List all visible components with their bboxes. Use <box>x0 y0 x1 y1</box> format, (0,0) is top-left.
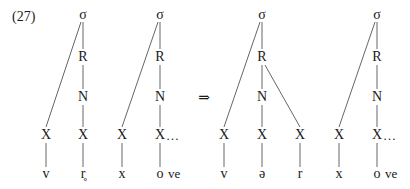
sigma-node: σ <box>373 8 381 22</box>
skeletal-slot: X <box>295 128 305 142</box>
rewrite-arrow-icon: ⇒ <box>198 89 210 106</box>
segment: x <box>119 167 126 181</box>
segment: r <box>298 167 303 181</box>
ellipsis: … <box>166 128 179 144</box>
skeletal-slot: X <box>41 128 51 142</box>
ellipsis: … <box>383 128 396 144</box>
rhyme-node: R <box>257 50 266 64</box>
nucleus-node: N <box>372 90 382 104</box>
example-number: (27) <box>12 9 35 25</box>
segment: v <box>43 167 50 181</box>
segment: o <box>374 167 381 181</box>
segment: r̥ <box>81 167 86 181</box>
segment: x <box>336 167 343 181</box>
nucleus-node: N <box>257 90 267 104</box>
segment: v <box>221 167 228 181</box>
sigma-node: σ <box>258 8 266 22</box>
skeletal-slot: X <box>334 128 344 142</box>
sigma-node: σ <box>156 8 164 22</box>
skeletal-slot: X <box>257 128 267 142</box>
segment-tail: ve <box>168 166 180 182</box>
rhyme-node: R <box>78 50 87 64</box>
nucleus-node: N <box>78 90 88 104</box>
segment-tail: ve <box>385 166 397 182</box>
segment: o <box>157 167 164 181</box>
skeletal-slot: X <box>372 128 382 142</box>
segment: ə <box>259 167 265 181</box>
nucleus-node: N <box>155 90 165 104</box>
skeletal-slot: X <box>117 128 127 142</box>
skeletal-slot: X <box>155 128 165 142</box>
sigma-node: σ <box>79 8 87 22</box>
rhyme-node: R <box>372 50 381 64</box>
skeletal-slot: X <box>219 128 229 142</box>
skeletal-slot: X <box>78 128 88 142</box>
rhyme-node: R <box>155 50 164 64</box>
